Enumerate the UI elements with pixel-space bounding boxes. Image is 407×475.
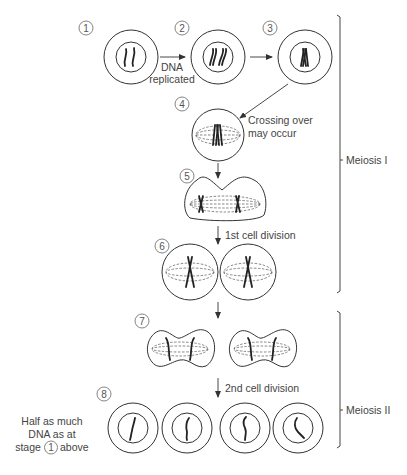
- stage-2-number: 2: [179, 23, 185, 34]
- stage-7-number: 7: [139, 316, 145, 327]
- crossing-over-label-2: may occur: [248, 127, 297, 139]
- stage-8-cells: 8: [97, 387, 323, 453]
- meiosis-2-bracket: [337, 311, 340, 448]
- chromosome: [248, 338, 252, 360]
- chromosome: [272, 338, 276, 360]
- chromosome: [244, 257, 252, 287]
- half-dna-label-2: DNA as at: [28, 428, 75, 440]
- dna-replicated-label: DNA: [161, 61, 183, 73]
- second-division-label: 2nd cell division: [225, 382, 299, 394]
- stage-3-number: 3: [267, 23, 273, 34]
- chromosome: [125, 49, 127, 66]
- chromosome: [133, 48, 135, 66]
- stage-1-number: 1: [83, 23, 89, 34]
- stage-7-cells: 7: [135, 314, 297, 367]
- chromosome: [295, 418, 304, 438]
- half-dna-label-3a: stage: [15, 441, 41, 453]
- chromosome: [213, 125, 215, 145]
- stage-5-number: 5: [184, 171, 190, 182]
- meiosis-1-label: Meiosis I: [346, 154, 387, 166]
- meiosis-diagram: 1 DNA replicated 2 3 4: [0, 0, 407, 475]
- crossing-over-label: Crossing over: [248, 114, 313, 126]
- stage-6-cells: 6: [155, 239, 276, 300]
- chromosome: [190, 338, 194, 360]
- stage-3-cell: 3: [263, 21, 332, 84]
- chromosome: [186, 257, 194, 287]
- chromosome: [130, 418, 135, 440]
- dna-replicated-label-2: replicated: [149, 73, 195, 85]
- stage-4-number: 4: [179, 99, 185, 110]
- half-dna-label-3b: above: [60, 441, 89, 453]
- chromosome: [217, 125, 219, 145]
- first-division-label: 1st cell division: [225, 229, 296, 241]
- stage-1-cell: 1: [79, 21, 158, 84]
- stage-4-cell: 4: [175, 97, 244, 161]
- chromosome: [186, 418, 189, 440]
- meiosis-2-label: Meiosis II: [346, 404, 390, 416]
- stage-8-number: 8: [101, 389, 107, 400]
- stage-5-cell: 5: [180, 169, 266, 221]
- chromosome: [166, 338, 170, 360]
- chromosome: [220, 125, 222, 145]
- half-dna-stage-ref: 1: [48, 442, 54, 453]
- arrow-3-to-4: [240, 84, 288, 118]
- chromosome: [244, 417, 246, 440]
- half-dna-label-1: Half as much: [21, 415, 82, 427]
- stage-6-number: 6: [159, 241, 165, 252]
- meiosis-1-bracket: [337, 15, 340, 293]
